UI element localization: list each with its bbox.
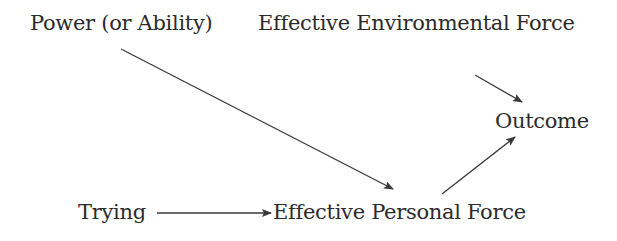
arrow-environmental-to-outcome (475, 75, 522, 102)
node-power: Power (or Ability) (30, 13, 212, 34)
node-trying: Trying (78, 202, 146, 223)
arrow-personal-force-to-outcome (442, 137, 515, 194)
arrow-power-to-personal-force (121, 49, 393, 189)
node-outcome: Outcome (495, 111, 589, 132)
node-personal-force: Effective Personal Force (273, 202, 526, 223)
node-environmental-force: Effective Environmental Force (258, 13, 575, 34)
diagram-canvas: Power (or Ability) Effective Environment… (0, 0, 617, 241)
